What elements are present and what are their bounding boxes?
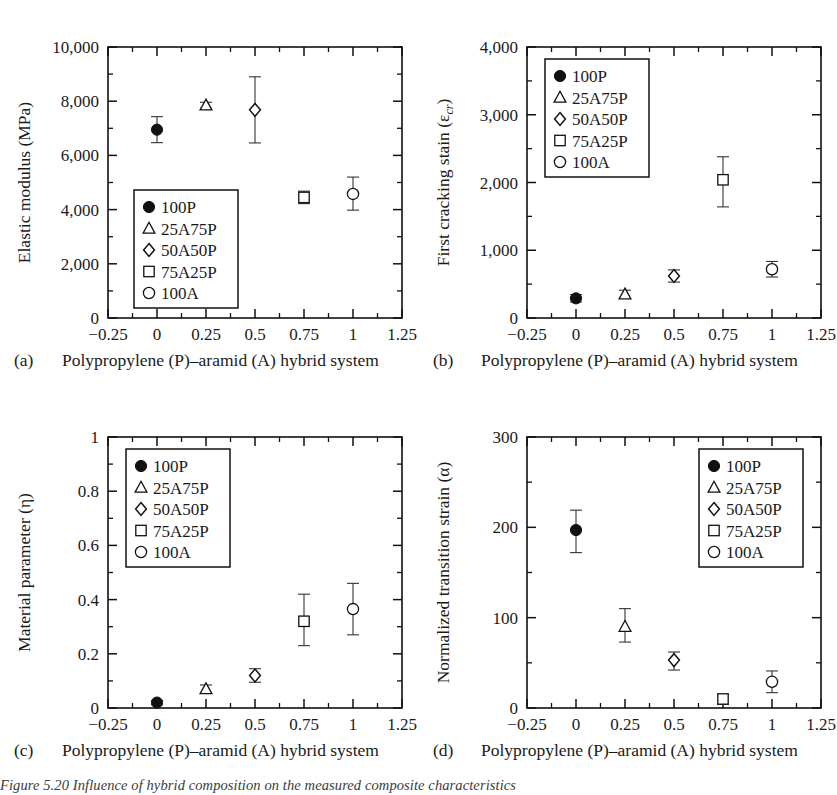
- legend-label: 100A: [572, 153, 611, 172]
- x-tick-label: −0.25: [88, 325, 127, 344]
- x-tick-label: 0.75: [708, 325, 738, 344]
- x-tick-label: 0.5: [663, 715, 684, 734]
- data-point-50A50P: [668, 270, 680, 283]
- x-tick-label: 0: [572, 715, 581, 734]
- x-tick-label: 0.75: [289, 715, 319, 734]
- panel-b: 01,0002,0003,0004,000−0.2500.250.50.7511…: [419, 0, 837, 390]
- data-point-25A75P: [200, 683, 212, 694]
- data-point-75A25P: [298, 594, 310, 645]
- y-axis-title: Elastic modulus (MPa): [14, 102, 34, 264]
- legend-marker-filled-circle: [708, 460, 719, 471]
- x-tick-label: 0.5: [663, 325, 684, 344]
- x-tick-label: 0: [153, 325, 162, 344]
- panel-c-plot: 00.20.40.60.81−0.2500.250.50.7511.25Mate…: [0, 390, 418, 780]
- x-tick-label: −0.25: [507, 325, 546, 344]
- data-point-75A25P: [298, 191, 310, 203]
- legend-label: 75A25P: [572, 132, 628, 151]
- data-point-100P: [151, 117, 163, 143]
- legend-label: 50A50P: [572, 110, 628, 129]
- data-point-75A25P: [717, 694, 729, 705]
- data-points: [570, 157, 778, 304]
- legend-label: 75A25P: [153, 522, 209, 541]
- y-tick-label: 1: [91, 428, 100, 447]
- marker-open-triangle: [200, 99, 212, 110]
- y-tick-label: 0.4: [78, 591, 100, 610]
- legend-marker-filled-circle: [554, 70, 565, 81]
- legend-label: 25A75P: [161, 220, 217, 239]
- legend-marker-open-circle: [554, 156, 565, 167]
- y-tick-label: 1,000: [480, 241, 518, 260]
- legend-label: 50A50P: [726, 500, 782, 519]
- marker-open-circle: [766, 676, 777, 687]
- legend-marker-open-square: [709, 525, 719, 535]
- data-point-75A25P: [717, 157, 729, 207]
- legend-label: 100A: [153, 543, 192, 562]
- x-tick-label: 0.75: [708, 715, 738, 734]
- y-axis-title: Normalized transition strain (α): [433, 462, 453, 684]
- marker-filled-circle: [570, 293, 581, 304]
- legend-marker-open-square: [136, 525, 146, 535]
- x-axis-title: Polypropylene (P)–aramid (A) hybrid syst…: [62, 350, 379, 370]
- data-point-100A: [347, 583, 359, 634]
- legend: 100P25A75P50A50P75A25P100A: [699, 449, 803, 567]
- x-tick-label: 0.75: [289, 325, 319, 344]
- panel-b-plot: 01,0002,0003,0004,000−0.2500.250.50.7511…: [419, 0, 837, 390]
- legend-marker-open-circle: [708, 546, 719, 557]
- legend-label: 100P: [572, 67, 607, 86]
- y-tick-label: 100: [493, 609, 519, 628]
- x-tick-label: 0.5: [244, 325, 265, 344]
- legend-label: 100A: [161, 284, 200, 303]
- y-tick-label: 6,000: [61, 146, 99, 165]
- data-points: [151, 583, 359, 708]
- data-point-50A50P: [249, 669, 261, 683]
- marker-open-diamond: [669, 654, 680, 667]
- panel-letter: (b): [433, 350, 454, 370]
- data-point-100A: [766, 671, 778, 693]
- marker-open-square: [718, 694, 728, 704]
- marker-filled-circle: [151, 124, 162, 135]
- data-point-50A50P: [249, 77, 261, 143]
- legend-label: 25A75P: [572, 89, 628, 108]
- marker-open-diamond: [669, 270, 680, 283]
- x-tick-label: 0.5: [244, 715, 265, 734]
- marker-open-diamond: [250, 103, 261, 116]
- legend-label: 25A75P: [153, 479, 209, 498]
- x-tick-label: −0.25: [88, 715, 127, 734]
- panel-d: 0100200300−0.2500.250.50.7511.25Normaliz…: [419, 390, 837, 780]
- data-point-100A: [347, 177, 359, 210]
- panel-c: 00.20.40.60.81−0.2500.250.50.7511.25Mate…: [0, 390, 418, 780]
- marker-open-triangle: [619, 621, 631, 632]
- y-tick-label: 4,000: [480, 38, 518, 57]
- legend-label: 100A: [726, 543, 765, 562]
- x-tick-label: 1: [768, 325, 777, 344]
- legend-marker-filled-circle: [135, 460, 146, 471]
- data-point-25A75P: [200, 99, 212, 110]
- data-point-100P: [570, 293, 582, 304]
- x-tick-label: 1: [349, 715, 358, 734]
- y-tick-label: 2,000: [61, 255, 99, 274]
- x-tick-label: 0.25: [191, 325, 221, 344]
- data-point-25A75P: [619, 288, 631, 299]
- panel-letter: (c): [14, 740, 34, 760]
- legend: 100P25A75P50A50P75A25P100A: [134, 190, 238, 308]
- marker-open-diamond: [250, 669, 261, 682]
- panel-letter: (d): [433, 740, 454, 760]
- y-tick-label: 0.8: [78, 482, 99, 501]
- marker-open-square: [299, 192, 309, 202]
- data-point-25A75P: [619, 609, 631, 642]
- x-tick-label: 1: [768, 715, 777, 734]
- legend: 100P25A75P50A50P75A25P100A: [126, 449, 230, 567]
- marker-open-square: [299, 616, 309, 626]
- y-tick-label: 0.6: [78, 536, 99, 555]
- x-tick-label: 1.25: [387, 715, 417, 734]
- data-point-100P: [570, 510, 582, 552]
- panel-a: 02,0004,0006,0008,00010,000−0.2500.250.5…: [0, 0, 418, 390]
- x-tick-label: 1.25: [806, 325, 836, 344]
- x-tick-label: 1.25: [387, 325, 417, 344]
- data-point-100P: [151, 697, 163, 708]
- marker-filled-circle: [151, 697, 162, 708]
- y-tick-label: 300: [493, 428, 519, 447]
- legend-label: 75A25P: [161, 263, 217, 282]
- data-point-50A50P: [668, 652, 680, 670]
- panel-a-plot: 02,0004,0006,0008,00010,000−0.2500.250.5…: [0, 0, 418, 390]
